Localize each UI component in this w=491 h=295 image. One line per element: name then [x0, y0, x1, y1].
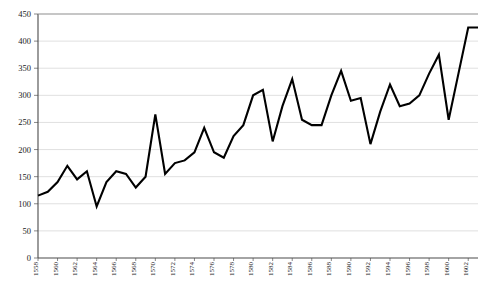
x-tick-label: 1588: [325, 262, 333, 277]
y-tick-label: 50: [23, 226, 32, 236]
x-tick-label: 1578: [228, 262, 236, 277]
x-tick-label: 1572: [169, 262, 177, 277]
y-tick-label: 300: [18, 90, 31, 100]
x-tick-label: 1566: [110, 262, 118, 277]
line-chart: 050100150200250300350400450 155815601562…: [0, 0, 491, 295]
y-tick-label: 200: [18, 145, 31, 155]
x-tick-label: 1586: [306, 262, 314, 277]
x-tick-label: 1574: [188, 262, 196, 277]
x-tick-label: 1582: [267, 262, 275, 277]
x-tick-label: 1562: [71, 262, 79, 277]
y-tick-label: 350: [18, 63, 31, 73]
data-series-line: [38, 28, 478, 207]
y-tick-label: 450: [18, 9, 31, 19]
x-tick-label: 1602: [462, 262, 470, 277]
y-tick-label: 150: [18, 172, 31, 182]
y-tick-label: 100: [18, 199, 31, 209]
x-tick-label: 1584: [286, 262, 294, 277]
x-tick-label: 1592: [364, 262, 372, 277]
y-tick-label: 0: [27, 253, 31, 263]
x-tick-label: 1596: [404, 262, 412, 277]
x-tick-label: 1560: [52, 262, 60, 277]
x-tick-label: 1576: [208, 262, 216, 277]
x-tick-label: 1590: [345, 262, 353, 277]
x-tick-label: 1598: [423, 262, 431, 277]
x-tick-label: 1570: [149, 262, 157, 277]
y-tick-label: 400: [18, 36, 31, 46]
y-axis-tick-labels: 050100150200250300350400450: [18, 9, 38, 263]
y-tick-label: 250: [18, 117, 31, 127]
x-axis-tick-labels: 1558156015621564156615681570157215741576…: [32, 262, 470, 277]
x-tick-label: 1600: [443, 262, 451, 277]
x-tick-label: 1568: [130, 262, 138, 277]
x-tick-label: 1580: [247, 262, 255, 277]
chart-container: 050100150200250300350400450 155815601562…: [0, 0, 491, 295]
x-tick-label: 1564: [91, 262, 99, 277]
gridlines: [38, 41, 478, 231]
x-tick-label: 1558: [32, 262, 40, 277]
x-tick-label: 1594: [384, 262, 392, 277]
